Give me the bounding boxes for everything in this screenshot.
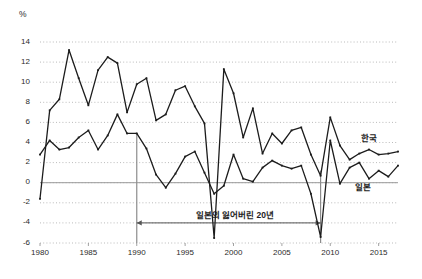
chart-plot-area (0, 0, 422, 279)
series-label-japan: 일본 (355, 180, 371, 192)
x-axis-tick-marks (40, 243, 379, 246)
chart-container: % 14121086420-2-4-6 19801985199019952000… (0, 0, 422, 279)
annotation-arrow (137, 133, 321, 243)
annotation-label-lost-decades: 일본의 잃어버린 20년 (196, 208, 274, 220)
series-label-korea: 한국 (361, 131, 377, 143)
